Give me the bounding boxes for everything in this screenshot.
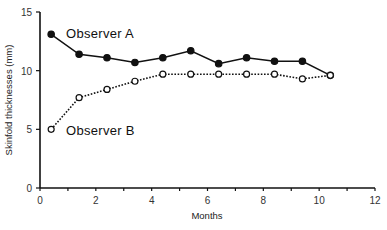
x-tick-label: 4 — [149, 195, 155, 206]
open-circle-marker-icon — [272, 71, 278, 77]
x-tick-label: 8 — [261, 195, 267, 206]
open-circle-marker-icon — [244, 71, 250, 77]
x-tick-label: 2 — [93, 195, 99, 206]
filled-circle-marker-icon — [160, 55, 166, 61]
y-axis-label: Skinfold thicknesses (mm) — [3, 45, 14, 156]
filled-circle-marker-icon — [215, 60, 221, 66]
series-layer — [48, 31, 334, 132]
filled-circle-marker-icon — [132, 59, 138, 65]
open-circle-marker-icon — [327, 72, 333, 78]
x-tick-label: 6 — [205, 195, 211, 206]
y-tick-label: 10 — [21, 66, 33, 77]
filled-circle-marker-icon — [76, 51, 82, 57]
y-tick-label: 15 — [21, 7, 33, 18]
filled-circle-marker-icon — [243, 55, 249, 61]
filled-circle-marker-icon — [299, 58, 305, 64]
x-tick-label: 10 — [314, 195, 326, 206]
open-circle-marker-icon — [299, 76, 305, 82]
x-tick-label: 12 — [369, 195, 381, 206]
x-tick-label: 0 — [37, 195, 43, 206]
open-circle-marker-icon — [132, 78, 138, 84]
open-circle-marker-icon — [160, 71, 166, 77]
open-circle-marker-icon — [188, 71, 194, 77]
filled-circle-marker-icon — [104, 55, 110, 61]
series-label-observer-a: Observer A — [66, 26, 134, 41]
series-label-observer-b: Observer B — [66, 123, 135, 138]
open-circle-marker-icon — [216, 71, 222, 77]
open-circle-marker-icon — [76, 95, 82, 101]
open-circle-marker-icon — [104, 86, 110, 92]
filled-circle-marker-icon — [48, 31, 54, 37]
filled-circle-marker-icon — [271, 58, 277, 64]
x-axis-label: Months — [191, 210, 222, 221]
series-line-observer-b — [51, 74, 330, 129]
skinfold-line-chart: 024681012051015 Months Skinfold thicknes… — [0, 0, 387, 230]
filled-circle-marker-icon — [188, 48, 194, 54]
y-tick-label: 5 — [26, 124, 32, 135]
open-circle-marker-icon — [48, 126, 54, 132]
y-tick-label: 0 — [26, 183, 32, 194]
